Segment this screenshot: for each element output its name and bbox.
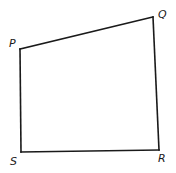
edge-sp bbox=[20, 49, 21, 152]
edge-qr bbox=[153, 17, 159, 150]
vertex-label-s: S bbox=[10, 155, 17, 168]
vertex-label-r: R bbox=[158, 152, 166, 165]
edge-rs bbox=[21, 150, 159, 152]
quadrilateral-diagram: P Q R S bbox=[0, 0, 176, 173]
edge-pq bbox=[20, 17, 153, 49]
vertex-label-q: Q bbox=[158, 8, 167, 21]
vertex-label-p: P bbox=[9, 37, 16, 50]
